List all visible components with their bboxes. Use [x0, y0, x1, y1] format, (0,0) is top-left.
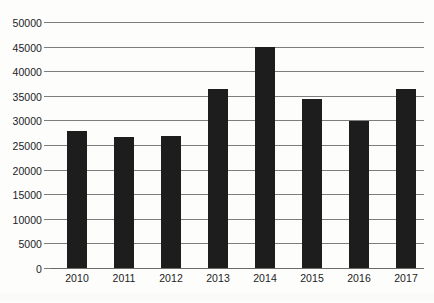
- x-tick-label-2017: 2017: [384, 273, 428, 284]
- bar-2011: [114, 137, 134, 268]
- x-tick-label-2016: 2016: [337, 273, 381, 284]
- bar-chart: 0 5000 10000 15000 20000 25000 30000 350…: [0, 0, 434, 303]
- x-axis-line: [50, 268, 424, 269]
- x-tick-label-2012: 2012: [149, 273, 193, 284]
- x-axis-labels: 2010 2011 2012 2013 2014 2015 2016 2017: [50, 273, 424, 291]
- scan-artifact-band: [0, 293, 434, 301]
- x-tick-label-2010: 2010: [55, 273, 99, 284]
- bar-2013: [208, 89, 228, 268]
- y-tick-label-2: 10000: [0, 215, 42, 226]
- y-tick-label-8: 40000: [0, 67, 42, 78]
- bar-2017: [396, 89, 416, 268]
- bar-2012: [161, 136, 181, 268]
- bar-2016: [349, 121, 369, 268]
- y-tick-label-1: 5000: [0, 239, 42, 250]
- y-tick-label-5: 25000: [0, 141, 42, 152]
- bar-2015: [302, 99, 322, 268]
- bar-2010: [67, 131, 87, 268]
- bars-layer: [50, 22, 424, 268]
- x-tick-label-2014: 2014: [243, 273, 287, 284]
- y-tick-label-4: 20000: [0, 166, 42, 177]
- y-tick-label-7: 35000: [0, 92, 42, 103]
- x-tick-label-2015: 2015: [290, 273, 334, 284]
- y-tick-label-3: 15000: [0, 190, 42, 201]
- y-tick-label-6: 30000: [0, 116, 42, 127]
- y-tick-label-0: 0: [0, 264, 42, 275]
- tick-0: [44, 268, 50, 269]
- y-tick-label-9: 45000: [0, 43, 42, 54]
- x-tick-label-2013: 2013: [196, 273, 240, 284]
- x-tick-label-2011: 2011: [102, 273, 146, 284]
- y-tick-label-10: 50000: [0, 18, 42, 29]
- bar-2014: [255, 47, 275, 268]
